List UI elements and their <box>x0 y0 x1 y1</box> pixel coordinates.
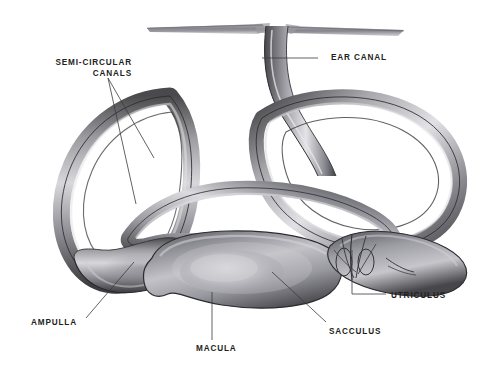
macula-patch <box>180 250 284 294</box>
label-ampulla: AMPULLA <box>31 318 77 329</box>
utriculus-chamber <box>328 231 467 296</box>
label-sacculus: SACCULUS <box>329 327 381 338</box>
label-semi-circular-canals: SEMI-CIRCULARCANALS <box>22 58 132 79</box>
label-semi-circular-canals-line2: CANALS <box>93 69 132 78</box>
label-macula: MACULA <box>196 344 237 355</box>
label-semi-circular-canals-line1: SEMI-CIRCULAR <box>55 58 132 67</box>
label-ear-canal: EAR CANAL <box>331 53 387 64</box>
label-utriculus: UTRICULUS <box>391 291 446 302</box>
figure-page: SEMI-CIRCULARCANALS EAR CANAL AMPULLA MA… <box>0 0 491 373</box>
